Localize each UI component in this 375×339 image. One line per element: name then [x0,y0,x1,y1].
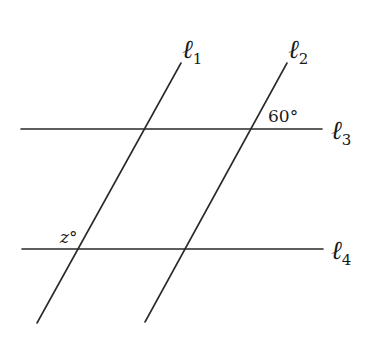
angle-label-60: 60° [268,106,298,126]
angle-label-z: z° [59,227,77,247]
line-l2 [145,63,287,322]
label-l1: ℓ1 [182,34,202,68]
label-l3: ℓ3 [331,115,351,149]
label-l4: ℓ4 [331,235,351,269]
diagram-canvas: ℓ1 ℓ2 ℓ3 ℓ4 60° z° [0,0,375,339]
line-l1 [37,63,181,323]
label-l2: ℓ2 [288,34,308,68]
